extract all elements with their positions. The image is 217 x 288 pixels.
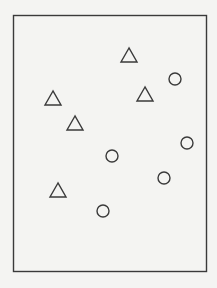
circle-marker-icon (158, 172, 170, 184)
triangle-marker-icon (137, 87, 153, 101)
circle-marker-icon (169, 73, 181, 85)
circle-marker-icon (181, 137, 193, 149)
scatter-figure (0, 0, 217, 288)
triangle-marker-icon (50, 183, 66, 197)
triangle-marker-icon (45, 91, 61, 105)
circle-marker-icon (97, 205, 109, 217)
triangle-marker-icon (121, 48, 137, 62)
triangle-marker-icon (67, 116, 83, 130)
marker-group (45, 48, 193, 217)
figure-frame (14, 16, 207, 272)
circle-marker-icon (106, 150, 118, 162)
